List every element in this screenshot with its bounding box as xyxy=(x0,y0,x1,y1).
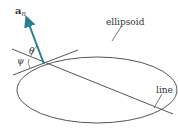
line-leader xyxy=(154,94,162,108)
psi-label: ψ xyxy=(17,56,25,66)
ellipsoid-line-diagram: an θ ψ ellipsoid line xyxy=(0,0,178,136)
ellipsoid-label: ellipsoid xyxy=(106,17,145,27)
line-label: line xyxy=(156,85,173,95)
normal-vector-arrow xyxy=(27,19,44,64)
ellipsoid-leader xyxy=(112,27,121,41)
ellipsoid-shape xyxy=(17,57,177,123)
psi-angle-arc xyxy=(28,59,30,68)
intersecting-line xyxy=(12,49,173,114)
vector-label: an xyxy=(15,5,26,18)
theta-label: θ xyxy=(29,46,35,56)
